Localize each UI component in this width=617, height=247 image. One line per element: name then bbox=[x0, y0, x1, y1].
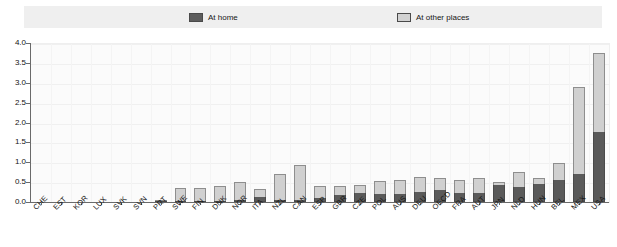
y-axis-tick bbox=[26, 142, 30, 143]
y-axis-tick-label: 3.0 bbox=[15, 79, 26, 87]
y-axis-tick-label: 2.5 bbox=[15, 99, 26, 107]
bar-usa[interactable] bbox=[593, 53, 605, 202]
x-axis-labels: CHEESTKORLUXSVKSVNPRTSWEFINDNKNORITANZLC… bbox=[31, 206, 609, 247]
y-axis-tick-label: 2.0 bbox=[15, 119, 26, 127]
y-axis-tick bbox=[26, 63, 30, 64]
bar-segment-at-other-places bbox=[334, 186, 346, 195]
y-axis-tick bbox=[26, 162, 30, 163]
y-axis-tick-label: 0.5 bbox=[15, 178, 26, 186]
y-axis-tick-label: 1.0 bbox=[15, 158, 26, 166]
bar-segment-at-other-places bbox=[414, 177, 426, 192]
bar-segment-at-other-places bbox=[454, 180, 466, 193]
y-axis-tick-label: 1.5 bbox=[15, 138, 26, 146]
bar-segment-at-other-places bbox=[254, 189, 266, 198]
legend-item-at-other-places: At other places bbox=[397, 13, 469, 22]
legend-label-at-home: At home bbox=[208, 13, 238, 22]
bar-segment-at-other-places bbox=[593, 53, 605, 133]
bar-segment-at-home bbox=[593, 132, 605, 202]
dark-swatch-icon bbox=[189, 13, 203, 22]
bar-segment-at-other-places bbox=[354, 185, 366, 194]
y-axis-tick bbox=[26, 83, 30, 84]
y-axis-tick bbox=[26, 123, 30, 124]
bar-segment-at-other-places bbox=[573, 87, 585, 174]
chart-legend: At home At other places bbox=[24, 6, 602, 28]
bar-series-container bbox=[31, 43, 609, 202]
bar-segment-at-other-places bbox=[473, 178, 485, 193]
bar-mex[interactable] bbox=[573, 87, 585, 202]
plot-area-wrapper: 0.00.51.01.52.02.53.03.54.0 bbox=[0, 38, 617, 213]
y-axis-tick bbox=[26, 182, 30, 183]
y-axis-tick bbox=[26, 202, 30, 203]
y-axis-tick-label: 0.0 bbox=[15, 198, 26, 206]
bar-segment-at-other-places bbox=[394, 180, 406, 194]
y-axis-labels: 0.00.51.01.52.02.53.03.54.0 bbox=[0, 38, 26, 206]
light-swatch-icon bbox=[397, 13, 411, 22]
legend-label-at-other-places: At other places bbox=[416, 13, 469, 22]
bar-segment-at-other-places bbox=[374, 181, 386, 194]
chart-root: At home At other places 0.00.51.01.52.02… bbox=[0, 0, 617, 247]
y-axis-tick-label: 4.0 bbox=[15, 39, 26, 47]
bar-segment-at-other-places bbox=[513, 172, 525, 187]
bar-segment-at-other-places bbox=[553, 163, 565, 180]
bar-segment-at-other-places bbox=[434, 178, 446, 190]
y-axis-tick bbox=[26, 43, 30, 44]
legend-item-at-home: At home bbox=[189, 13, 238, 22]
y-axis-tick-label: 3.5 bbox=[15, 59, 26, 67]
y-axis-tick bbox=[26, 103, 30, 104]
